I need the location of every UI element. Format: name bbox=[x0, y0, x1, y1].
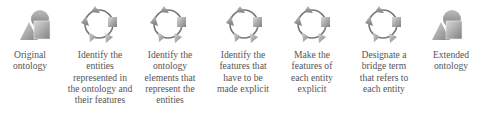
arrow-icon bbox=[264, 20, 294, 22]
arrow-icon bbox=[120, 20, 150, 22]
step4-cycle-icon bbox=[292, 4, 332, 44]
label-extended-ontology: Extended ontology bbox=[424, 49, 478, 72]
step2-cycle-icon bbox=[148, 4, 188, 44]
label-original-ontology: Original ontology bbox=[4, 49, 56, 72]
label-step2: Identify the ontology elements that repr… bbox=[138, 49, 202, 105]
original-ontology-icon bbox=[17, 4, 57, 44]
arrow-icon bbox=[334, 20, 366, 22]
arrow-icon bbox=[48, 20, 80, 22]
step3-cycle-icon bbox=[224, 4, 264, 44]
step1-cycle-icon bbox=[79, 4, 119, 44]
extended-ontology-icon bbox=[429, 4, 469, 44]
arrow-icon bbox=[194, 20, 226, 22]
arrow-icon bbox=[402, 20, 432, 22]
label-step1: Identify the entities represented in the… bbox=[64, 49, 136, 105]
label-step5: Designate a bridge term that refers to e… bbox=[352, 49, 416, 94]
label-step3: Identify the features that have to be ma… bbox=[212, 49, 274, 94]
label-step4: Make the features of each entity explici… bbox=[282, 49, 342, 94]
step5-cycle-icon bbox=[363, 4, 403, 44]
